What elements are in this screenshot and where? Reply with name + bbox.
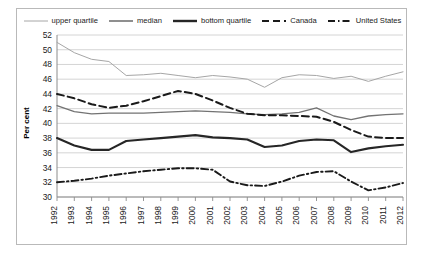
y-axis-ticklabels: 303234363840424446485052 xyxy=(43,30,53,202)
svg-text:2010: 2010 xyxy=(360,206,370,225)
svg-text:2002: 2002 xyxy=(222,206,232,225)
svg-text:1999: 1999 xyxy=(170,206,180,225)
svg-text:2001: 2001 xyxy=(205,206,215,225)
svg-text:2004: 2004 xyxy=(257,206,267,225)
svg-text:2003: 2003 xyxy=(239,206,249,225)
svg-text:1996: 1996 xyxy=(118,206,128,225)
svg-text:1998: 1998 xyxy=(153,206,163,225)
axis-lines xyxy=(57,35,403,197)
svg-text:52: 52 xyxy=(43,30,53,40)
svg-text:2007: 2007 xyxy=(309,206,319,225)
svg-text:1993: 1993 xyxy=(66,206,76,225)
legend-swatch-canada xyxy=(262,17,286,25)
plot-area: 303234363840424446485052 199219931994199… xyxy=(17,27,408,244)
line-chart-svg: 303234363840424446485052 199219931994199… xyxy=(17,27,408,244)
svg-text:2011: 2011 xyxy=(378,206,388,224)
svg-text:36: 36 xyxy=(43,148,53,158)
svg-text:46: 46 xyxy=(43,74,53,84)
svg-text:1994: 1994 xyxy=(84,206,94,225)
svg-text:50: 50 xyxy=(43,45,53,55)
legend-item-bottom-quartile: bottom quartile xyxy=(173,17,251,25)
series-line-bottom-quartile xyxy=(57,135,403,152)
y-axis-title: Per cent xyxy=(22,107,31,139)
legend-label-bottom-quartile: bottom quartile xyxy=(201,17,251,25)
svg-text:2008: 2008 xyxy=(326,206,336,225)
legend-label-median: median xyxy=(137,17,162,25)
x-axis-ticklabels: 1992199319941995199619971998199920002001… xyxy=(49,206,405,225)
legend-swatch-upper-quartile xyxy=(24,17,48,25)
chart-container: upper quartile median bottom quartile Ca… xyxy=(16,8,407,245)
svg-text:1995: 1995 xyxy=(101,206,111,225)
legend-label-united-states: United States xyxy=(356,17,402,25)
legend-swatch-median xyxy=(109,17,133,25)
grid-lines xyxy=(57,35,403,197)
legend-item-united-states: United States xyxy=(328,17,402,25)
legend-swatch-united-states xyxy=(328,17,352,25)
svg-text:2006: 2006 xyxy=(291,206,301,225)
svg-text:32: 32 xyxy=(43,177,53,187)
svg-text:38: 38 xyxy=(43,133,53,143)
svg-text:42: 42 xyxy=(43,104,53,114)
svg-text:40: 40 xyxy=(43,118,53,128)
svg-text:2000: 2000 xyxy=(187,206,197,225)
legend-item-median: median xyxy=(109,17,162,25)
svg-text:2009: 2009 xyxy=(343,206,353,225)
svg-text:1997: 1997 xyxy=(136,206,146,225)
svg-text:2012: 2012 xyxy=(395,206,405,225)
legend-label-upper-quartile: upper quartile xyxy=(52,17,98,25)
series-line-united-states xyxy=(57,168,403,190)
legend-item-upper-quartile: upper quartile xyxy=(24,17,98,25)
svg-text:30: 30 xyxy=(43,192,53,202)
svg-text:1992: 1992 xyxy=(49,206,59,225)
legend-label-canada: Canada xyxy=(290,17,317,25)
legend-item-canada: Canada xyxy=(262,17,317,25)
svg-text:34: 34 xyxy=(43,163,53,173)
svg-text:48: 48 xyxy=(43,59,53,69)
svg-text:44: 44 xyxy=(43,89,53,99)
series-line-canada xyxy=(57,91,403,138)
x-axis-tickmarks xyxy=(57,197,403,201)
legend-swatch-bottom-quartile xyxy=(173,17,197,25)
svg-text:2005: 2005 xyxy=(274,206,284,225)
